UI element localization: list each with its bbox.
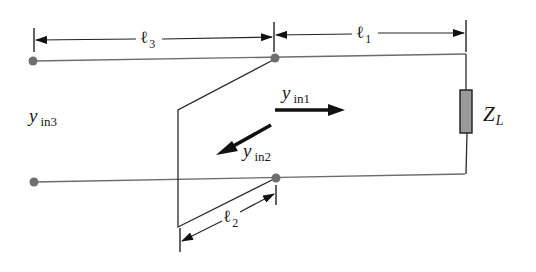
label-l2: ℓ2 <box>223 208 238 225</box>
label-yin2: yin2 <box>243 141 271 160</box>
label-yin1: yin1 <box>282 83 310 102</box>
label-yin3: yin3 <box>29 106 57 125</box>
circuit-diagram <box>0 0 536 272</box>
arrow-yin1 <box>275 104 345 116</box>
main-transmission-line <box>33 54 466 182</box>
label-l1: ℓ1 <box>356 24 371 41</box>
node-junction-top <box>271 54 280 63</box>
load-impedance <box>460 54 472 174</box>
node-left-bottom <box>30 178 39 187</box>
node-junction-bottom <box>272 174 281 183</box>
label-l3: ℓ3 <box>140 29 155 46</box>
node-left-top <box>29 57 38 66</box>
label-load-impedance: ZL <box>483 104 503 125</box>
